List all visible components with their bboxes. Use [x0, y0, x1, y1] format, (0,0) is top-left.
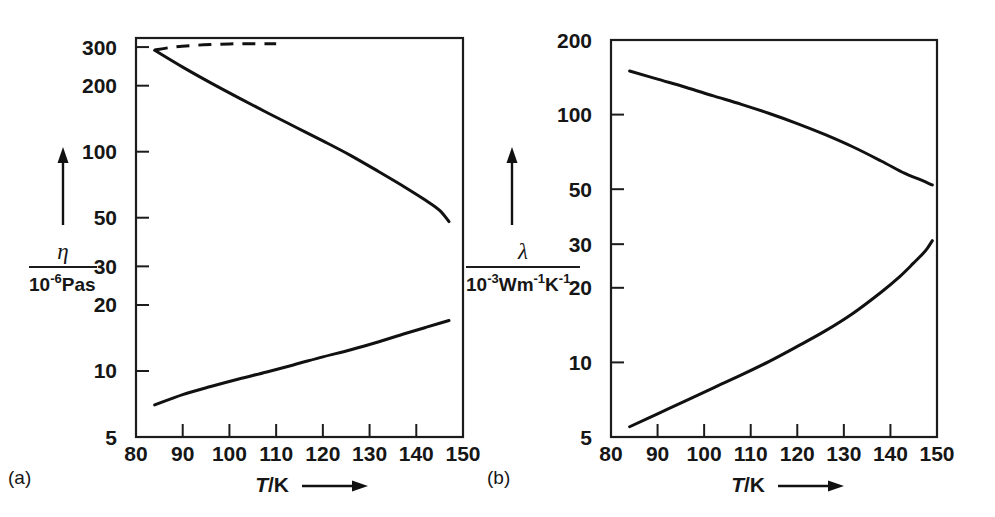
panel-a-label: (a) — [8, 467, 31, 488]
panel-b-y-tick-labels: 200100503020105 — [557, 29, 592, 449]
panel-a: 300200100503020105 809010011012013014015… — [8, 36, 481, 496]
panel-b-y-tick-marks — [611, 115, 624, 363]
x-tick-label: 120 — [305, 442, 340, 465]
panel-b-y-unit-mantissa: 10 — [466, 274, 487, 295]
panel-a-x-axis-caption: T /K — [255, 473, 368, 496]
figure-container: 300200100503020105 809010011012013014015… — [0, 0, 995, 517]
y-tick-label: 50 — [569, 178, 592, 201]
y-tick-label: 50 — [94, 206, 117, 229]
panel-b-y-unit-rest: Wm — [499, 274, 534, 295]
x-tick-label: 120 — [780, 442, 815, 465]
curve-liquid-viscosity — [155, 50, 449, 221]
y-tick-label: 20 — [569, 276, 592, 299]
x-tick-label: 100 — [212, 442, 247, 465]
y-tick-label: 200 — [557, 29, 592, 52]
panel-b-label: (b) — [487, 467, 510, 488]
y-tick-label: 30 — [94, 255, 117, 278]
y-tick-label: 300 — [82, 36, 117, 59]
x-tick-label: 100 — [687, 442, 722, 465]
panel-a-y-axis-caption: η 10-6Pas — [29, 147, 97, 295]
x-tick-label: 80 — [124, 442, 147, 465]
panel-b-y-unit-exponent-3: -1 — [559, 271, 571, 286]
y-tick-label: 30 — [569, 233, 592, 256]
panel-a-y-unit-mantissa: 10 — [29, 274, 50, 295]
panel-a-x-arrow-head — [352, 481, 368, 492]
y-tick-label: 5 — [580, 426, 592, 449]
y-tick-label: 100 — [82, 140, 117, 163]
panel-b-x-arrow-head — [828, 481, 844, 492]
panel-b-x-tick-marks — [658, 424, 891, 437]
y-tick-label: 10 — [94, 359, 117, 382]
panel-a-y-unit: 10-6Pas — [29, 271, 96, 295]
panel-a-x-unit: /K — [268, 473, 289, 496]
curve-saturated-liquid-viscosity-extrapolated — [155, 44, 276, 50]
curve-vapour-thermal-conductivity — [630, 241, 933, 427]
panel-b: 200100503020105 8090100110120130140150 λ… — [466, 29, 955, 497]
x-tick-label: 140 — [873, 442, 908, 465]
x-tick-label: 90 — [646, 442, 669, 465]
panel-a-curves — [155, 44, 449, 405]
y-tick-label: 100 — [557, 103, 592, 126]
panel-a-x-tick-marks — [183, 424, 417, 437]
panel-b-y-symbol: λ — [517, 239, 528, 264]
panel-b-y-arrow-head — [507, 147, 518, 163]
curve-vapour-viscosity — [155, 320, 449, 405]
panel-a-y-symbol: η — [57, 239, 68, 264]
x-tick-label: 110 — [259, 442, 293, 465]
y-tick-label: 5 — [105, 426, 117, 449]
curve-liquid-thermal-conductivity — [630, 71, 933, 185]
panel-a-plot-frame — [136, 38, 463, 437]
x-tick-label: 150 — [445, 442, 480, 465]
x-tick-label: 140 — [399, 442, 434, 465]
panel-b-y-unit-rest-2: K — [545, 274, 559, 295]
panel-a-y-unit-rest: Pas — [62, 274, 96, 295]
x-tick-label: 90 — [171, 442, 194, 465]
panel-a-x-tick-labels: 8090100110120130140150 — [124, 442, 480, 465]
panel-a-y-unit-exponent: -6 — [50, 271, 62, 286]
panel-b-y-unit-exponent: -3 — [487, 271, 499, 286]
panel-a-y-arrow-head — [58, 147, 69, 163]
panel-b-y-unit: 10-3Wm-1K-1 — [466, 271, 570, 295]
panel-b-y-unit-exponent-2: -1 — [534, 271, 546, 286]
panel-b-x-axis-caption: T /K — [731, 473, 844, 496]
x-tick-label: 150 — [919, 442, 954, 465]
y-tick-label: 200 — [82, 74, 117, 97]
y-tick-label: 20 — [94, 293, 117, 316]
x-tick-label: 110 — [734, 442, 768, 465]
y-tick-label: 10 — [569, 351, 592, 374]
x-tick-label: 130 — [352, 442, 387, 465]
x-tick-label: 130 — [826, 442, 861, 465]
panel-b-y-axis-caption: λ 10-3Wm-1K-1 — [466, 147, 580, 295]
dual-panel-chart-svg: 300200100503020105 809010011012013014015… — [0, 0, 995, 517]
panel-b-x-unit: /K — [744, 473, 765, 496]
panel-a-y-tick-labels: 300200100503020105 — [82, 36, 117, 449]
panel-a-y-tick-marks — [136, 47, 149, 371]
x-tick-label: 80 — [599, 442, 622, 465]
panel-b-curves — [630, 71, 933, 427]
panel-b-x-tick-labels: 8090100110120130140150 — [599, 442, 954, 465]
panel-b-plot-frame — [611, 40, 937, 437]
